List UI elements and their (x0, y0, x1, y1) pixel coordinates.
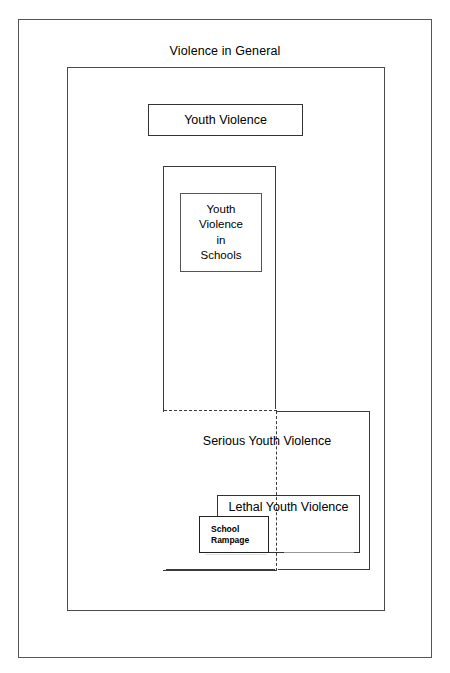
label-youth-violence: Youth Violence (184, 112, 267, 128)
label-school-rampage: School Rampage (200, 524, 249, 546)
region-school-rampage: School Rampage (199, 516, 269, 553)
nested-violence-taxonomy-diagram: Violence in General Youth Violence Youth… (0, 0, 450, 673)
scan-artifact-shadow (205, 554, 267, 555)
label-youth-violence-in-schools: Youth Violence in Schools (199, 202, 243, 264)
label-lethal-youth-violence: Lethal Youth Violence (217, 499, 360, 516)
region-youth-violence-in-schools: Youth Violence in Schools (180, 193, 262, 272)
label-serious-youth-violence: Serious Youth Violence (164, 433, 370, 450)
label-violence-in-general: Violence in General (18, 42, 432, 60)
scan-artifact-shadow (284, 552, 354, 553)
dashed-edge-serious-top (164, 410, 277, 411)
region-youth-violence: Youth Violence (148, 104, 303, 136)
